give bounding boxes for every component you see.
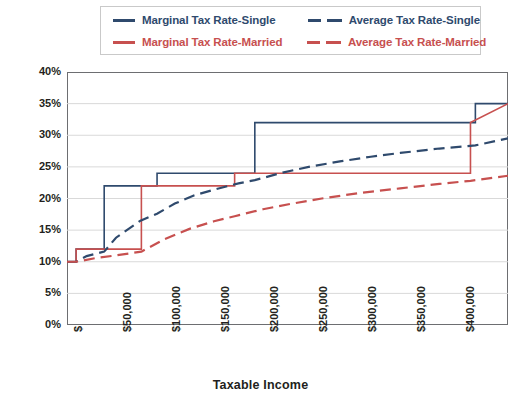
y-tick-label: 25% — [10, 161, 61, 172]
x-axis-title: Taxable Income — [0, 378, 521, 392]
tax-rate-chart: Marginal Tax Rate-Single Average Tax Rat… — [0, 0, 521, 408]
y-tick-label: 20% — [10, 193, 61, 204]
y-tick-label: 30% — [10, 129, 61, 140]
y-tick-label: 15% — [10, 224, 61, 235]
series-line — [67, 104, 508, 262]
series-line — [67, 138, 508, 261]
y-tick-label: 40% — [10, 66, 61, 77]
x-tick-label: $ — [72, 326, 84, 332]
series-line — [67, 104, 508, 262]
x-tick-label: $100,000 — [170, 286, 182, 332]
x-tick-label: $200,000 — [268, 286, 280, 332]
x-tick-label: $350,000 — [415, 286, 427, 332]
x-tick-label: $400,000 — [464, 286, 476, 332]
y-tick-label: 35% — [10, 98, 61, 109]
x-tick-label: $50,000 — [121, 292, 133, 332]
x-tick-label: $250,000 — [317, 286, 329, 332]
x-tick-label: $150,000 — [219, 286, 231, 332]
plot-area — [67, 72, 508, 325]
y-tick-label: 5% — [10, 287, 61, 298]
plot-canvas — [67, 72, 508, 325]
x-tick-label: $300,000 — [366, 286, 378, 332]
y-tick-label: 0% — [10, 319, 61, 330]
y-tick-label: 10% — [10, 256, 61, 267]
